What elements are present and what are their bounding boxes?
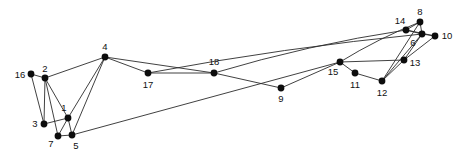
edge-layer [31, 22, 435, 136]
graph-edge [44, 78, 45, 124]
label-layer: 123456789101112131415161718 [15, 6, 453, 151]
graph-node-17[interactable] [145, 70, 152, 77]
graph-node-label-13: 13 [410, 57, 421, 68]
graph-canvas: 123456789101112131415161718 [0, 0, 461, 155]
graph-node-label-18: 18 [209, 56, 220, 67]
graph-node-label-15: 15 [328, 66, 339, 77]
graph-node-10[interactable] [432, 33, 439, 40]
graph-node-13[interactable] [401, 57, 408, 64]
graph-edge [72, 57, 105, 135]
graph-edge [214, 30, 406, 73]
graph-node-label-14: 14 [395, 15, 406, 26]
graph-node-label-6: 6 [410, 37, 415, 48]
graph-node-label-11: 11 [350, 79, 360, 90]
graph-node-label-2: 2 [42, 63, 47, 74]
graph-node-label-4: 4 [102, 41, 107, 52]
graph-node-label-5: 5 [73, 140, 78, 151]
graph-node-14[interactable] [403, 27, 410, 34]
graph-node-4[interactable] [102, 54, 109, 61]
graph-node-16[interactable] [28, 71, 35, 78]
graph-edge [45, 57, 105, 78]
graph-node-6[interactable] [419, 31, 426, 38]
graph-node-2[interactable] [42, 75, 49, 82]
graph-edge [44, 118, 68, 124]
graph-edge [105, 57, 148, 73]
graph-edge [68, 57, 105, 118]
graph-node-label-3: 3 [32, 118, 37, 129]
graph-node-label-9: 9 [278, 93, 283, 104]
graph-node-label-10: 10 [442, 30, 453, 41]
graph-node-label-12: 12 [377, 87, 388, 98]
graph-node-7[interactable] [55, 133, 62, 140]
graph-edge [45, 78, 58, 136]
graph-figure: 123456789101112131415161718 [0, 0, 461, 155]
graph-node-label-7: 7 [48, 138, 53, 149]
graph-node-label-1: 1 [61, 102, 66, 113]
graph-node-label-8: 8 [417, 6, 422, 17]
graph-node-3[interactable] [41, 121, 48, 128]
graph-node-1[interactable] [65, 115, 72, 122]
graph-edge [31, 74, 44, 124]
graph-node-5[interactable] [69, 132, 76, 139]
graph-node-9[interactable] [278, 85, 285, 92]
graph-node-12[interactable] [379, 78, 386, 85]
graph-node-label-16: 16 [15, 69, 26, 80]
graph-node-8[interactable] [417, 19, 424, 26]
graph-node-18[interactable] [211, 70, 218, 77]
graph-node-11[interactable] [352, 70, 359, 77]
graph-node-label-17: 17 [143, 79, 154, 90]
graph-node-15[interactable] [337, 59, 344, 66]
